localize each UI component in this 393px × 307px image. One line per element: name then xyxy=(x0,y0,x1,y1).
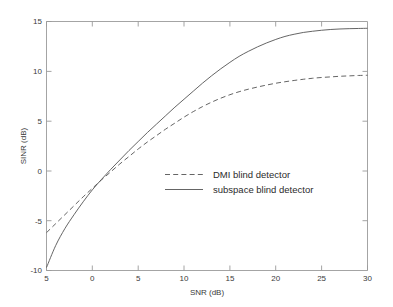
x-tick-label: 20 xyxy=(271,274,280,283)
legend-label-subspace-blind-detector: subspace blind detector xyxy=(213,184,313,195)
y-tick-label: -5 xyxy=(35,217,43,226)
x-tick-label: 25 xyxy=(317,274,326,283)
figure-background xyxy=(0,0,393,307)
y-tick-label: 0 xyxy=(38,167,43,176)
y-tick-label: 15 xyxy=(33,17,42,26)
y-tick-label: -10 xyxy=(30,266,42,275)
x-tick-label: 10 xyxy=(180,274,189,283)
y-tick-label: 10 xyxy=(33,67,42,76)
x-tick-label: 30 xyxy=(363,274,372,283)
x-tick-label: 5 xyxy=(44,274,49,283)
y-axis-title: SINR (dB) xyxy=(19,127,28,164)
x-tick-label: 5 xyxy=(136,274,141,283)
x-axis-title: SNR (dB) xyxy=(190,288,225,297)
x-tick-label: 15 xyxy=(225,274,234,283)
legend-label-dmi-blind-detector: DMI blind detector xyxy=(213,169,290,180)
chart-svg: 5 0 5 10 15 20 25 30 -10 -5 0 5 10 15 SN… xyxy=(0,0,393,307)
x-tick-label: 0 xyxy=(90,274,95,283)
chart-figure-root: 5 0 5 10 15 20 25 30 -10 -5 0 5 10 15 SN… xyxy=(0,0,393,307)
y-tick-label: 5 xyxy=(38,117,43,126)
